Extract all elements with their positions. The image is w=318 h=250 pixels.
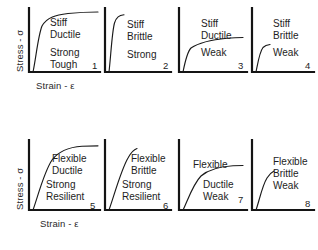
panel-4-number: 4	[305, 60, 310, 71]
panel-8: Flexible Brittle Weak 8	[248, 138, 316, 216]
panel-2-curve	[109, 15, 124, 72]
panel-8-label-1: Flexible	[273, 156, 307, 168]
bottom-row: Stress - σ Strain - ε Flexible Ductile S…	[0, 132, 318, 250]
panel-5-label-1: Flexible	[52, 153, 86, 165]
panel-7: Flexible Ductile Weak 7	[175, 138, 249, 216]
panel-6-label-3: Strong	[122, 179, 151, 191]
panel-5-label-2: Ductile	[52, 165, 83, 177]
panel-2-label-2: Brittle	[127, 31, 153, 43]
panel-6: Flexible Brittle Strong Resilient 6	[101, 138, 174, 216]
panel-8-label-3: Weak	[273, 180, 298, 192]
x-axis-label-top: Strain - ε	[36, 80, 75, 91]
panel-1-label-1: Stiff	[50, 17, 67, 29]
panel-3-label-1: Stiff	[201, 18, 218, 30]
panel-7-label-2: Ductile	[203, 179, 234, 191]
panel-4-label-3: Weak	[273, 47, 298, 59]
x-axis-label-bottom: Strain - ε	[40, 218, 79, 229]
panel-1-label-3: Strong	[50, 47, 79, 59]
panel-1-label-2: Ductile	[50, 29, 81, 41]
panel-4: Stiff Brittle Weak 4	[248, 6, 316, 78]
panel-5-label-3: Strong	[46, 179, 75, 191]
panel-2: Stiff Brittle Strong 2	[101, 6, 174, 78]
panel-7-label-3: Weak	[203, 191, 228, 203]
panel-3-number: 3	[238, 60, 243, 71]
panel-1-number: 1	[92, 60, 97, 71]
panel-1: Stiff Ductile Strong Tough 1	[24, 6, 102, 78]
panel-5-number: 5	[90, 200, 95, 211]
panel-4-label-1: Stiff	[273, 18, 290, 30]
panel-3-label-3: Weak	[201, 47, 226, 59]
stress-strain-figure: Stress - σ Strain - ε Stiff Ductile Stro…	[0, 0, 318, 250]
panel-3: Stiff Ductile Weak 3	[175, 6, 249, 78]
panel-5: Flexible Ductile Strong Resilient 5	[24, 138, 102, 216]
panel-6-number: 6	[163, 200, 168, 211]
panel-2-label-3: Strong	[127, 49, 156, 61]
panel-6-label-2: Brittle	[131, 165, 157, 177]
panel-2-label-1: Stiff	[127, 19, 144, 31]
top-row: Stress - σ Strain - ε Stiff Ductile Stro…	[0, 0, 318, 100]
panel-3-label-2: Ductile	[201, 30, 232, 42]
panel-7-label-1: Flexible	[193, 159, 227, 171]
panel-1-label-4: Tough	[50, 59, 77, 71]
panel-8-label-2: Brittle	[273, 168, 299, 180]
panel-6-label-1: Flexible	[131, 153, 165, 165]
panel-8-curve	[256, 171, 274, 210]
panel-5-label-4: Resilient	[46, 191, 84, 203]
panel-4-curve	[256, 45, 270, 73]
panel-6-label-4: Resilient	[122, 191, 160, 203]
panel-8-number: 8	[305, 198, 310, 209]
panel-2-number: 2	[163, 60, 168, 71]
panel-4-label-2: Brittle	[273, 30, 299, 42]
panel-7-number: 7	[238, 194, 243, 205]
